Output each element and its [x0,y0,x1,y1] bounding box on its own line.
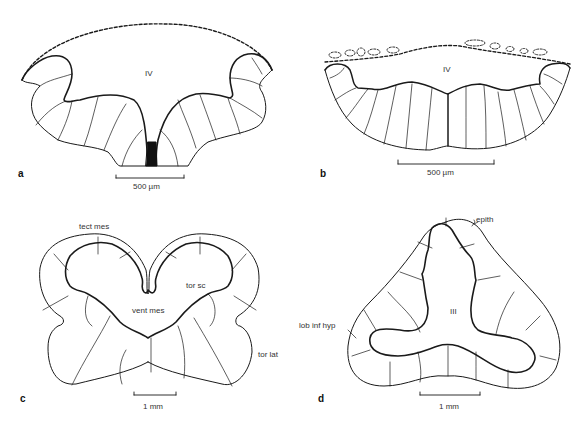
tor-lat-label: tor lat [258,350,278,359]
scale-bar-a [116,175,184,178]
scale-label-b: 500 µm [427,168,454,177]
midline-fill [146,142,157,166]
outer-contour-d [348,219,560,388]
vent-mes-label: vent mes [132,306,164,315]
tor-sc-label: tor sc [186,281,206,290]
panel-letter-a: a [18,168,24,179]
ventricle-label-a: IV [145,69,153,78]
scale-label-c: 1 mm [143,402,163,411]
scale-label-a: 500 µm [133,182,160,191]
lob-inf-hyp-leader [348,330,356,338]
epith-label: epith [476,215,493,224]
ventricle-c [66,243,233,339]
panel-a-drawing [22,24,272,178]
panel-b-drawing [325,40,570,164]
panel-letter-d: d [318,393,324,404]
scale-bar-b [398,160,494,164]
panel-letter-c: c [20,393,26,404]
scale-bar-d [420,392,480,395]
scale-bar-c [134,392,176,395]
figure-drawing [0,0,584,422]
ventricle-label-d: III [450,307,457,316]
tect-mes-label: tect mes [79,222,109,231]
ventricle-label-b: IV [443,65,451,74]
lob-inf-hyp-label: lob inf hyp [299,321,335,330]
scale-label-d: 1 mm [439,402,459,411]
panel-letter-b: b [320,168,326,179]
ventricle-wall-left [22,56,148,165]
